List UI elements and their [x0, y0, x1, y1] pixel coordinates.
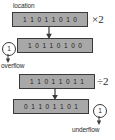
bit-group-row3: 1 1 0 1 1 0 1 1 [29, 78, 84, 85]
bit: 1 [72, 78, 77, 85]
bit: 0 [66, 103, 71, 110]
bit: 0 [45, 103, 50, 110]
bit: 0 [58, 16, 63, 23]
bit: 1 [65, 16, 70, 23]
bit: 1 [31, 103, 36, 110]
bit: 1 [51, 78, 56, 85]
result-register-multiply: 1 0 1 1 0 1 0 0 [17, 38, 93, 53]
bit: 0 [56, 42, 61, 49]
source-register-multiply: 1 1 0 1 1 0 1 0 [12, 12, 88, 27]
divide-operator-label: ÷2 [97, 75, 109, 87]
bit-shift-diagram: location 1 1 0 1 1 0 1 0 ×2 1 0 1 1 0 1 … [0, 0, 115, 140]
bit-group-row1: 1 1 0 1 1 0 1 0 [22, 16, 77, 23]
bit: 1 [27, 42, 32, 49]
source-register-divide: 1 1 0 1 1 0 1 1 [19, 74, 95, 89]
bit: 1 [63, 42, 68, 49]
bit: 1 [37, 78, 42, 85]
bit: 0 [23, 103, 28, 110]
bit: 1 [22, 16, 27, 23]
underflow-label: underflow [72, 126, 99, 133]
bit: 0 [73, 16, 78, 23]
overflow-label: overflow [1, 62, 24, 69]
bit: 1 [38, 103, 43, 110]
bit: 0 [44, 78, 49, 85]
bit-group-row2: 1 0 1 1 0 1 0 0 [27, 42, 82, 49]
bit: 0 [70, 42, 75, 49]
location-label: location [13, 2, 35, 9]
bit: 1 [58, 78, 63, 85]
bit: 1 [29, 78, 34, 85]
bit: 1 [51, 16, 56, 23]
bit: 0 [78, 42, 83, 49]
bit: 0 [65, 78, 70, 85]
underflow-arrow-icon [95, 116, 104, 125]
bit: 1 [42, 42, 47, 49]
bit: 0 [37, 16, 42, 23]
bit: 1 [74, 103, 79, 110]
bit-group-row4: 0 1 1 0 1 1 0 1 [23, 103, 78, 110]
bit: 1 [44, 16, 49, 23]
bit: 1 [59, 103, 64, 110]
bit: 1 [49, 42, 54, 49]
bit: 1 [52, 103, 57, 110]
result-register-divide: 0 1 1 0 1 1 0 1 [13, 99, 89, 114]
multiply-operator-label: ×2 [92, 13, 104, 25]
bit: 1 [30, 16, 35, 23]
bit: 1 [80, 78, 85, 85]
bit: 0 [35, 42, 40, 49]
